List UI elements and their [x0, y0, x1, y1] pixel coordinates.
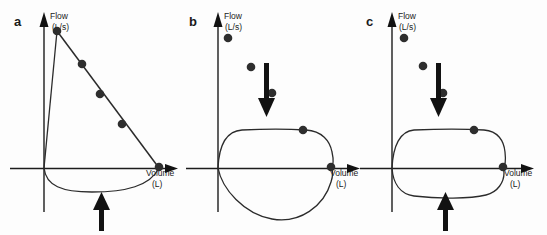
panel-a-inspiratory-limb — [44, 168, 159, 192]
panel-a-descending-fit-line — [57, 31, 159, 168]
panel-a-data-point — [118, 120, 127, 129]
panel-a-data-point — [96, 90, 105, 99]
panel-c-y-axis-arrowhead — [388, 12, 397, 27]
panel-b-data-point — [224, 34, 233, 43]
panel-a-up-arrow-annotation — [93, 192, 110, 231]
panel-a-y-axis — [40, 12, 49, 212]
panel-c-data-point — [470, 126, 479, 135]
panel-b-data-point — [299, 126, 308, 135]
panel-c-inspiratory-limb — [392, 168, 504, 198]
panel-b: b Flow (L/s) Volume (L) — [186, 11, 360, 220]
panel-a-ascending-limb — [44, 31, 57, 168]
panel-a-data-point — [155, 163, 164, 172]
panel-a-data-point — [78, 60, 87, 69]
panel-c-letter: c — [366, 14, 373, 29]
panel-b-letter: b — [189, 14, 197, 29]
figure-canvas: a Flow (L/s) Volume (L) — [0, 0, 547, 235]
panel-b-data-point — [327, 163, 336, 172]
panel-b-inspiratory-limb — [218, 168, 333, 220]
panel-b-expiratory-limb — [218, 129, 333, 168]
panel-a-letter: a — [14, 14, 22, 29]
panel-c-x-axis-label-line2: (L) — [510, 179, 521, 189]
panel-a-x-axis-label-line2: (L) — [152, 179, 163, 189]
panel-c-data-point — [400, 34, 409, 43]
panel-b-y-axis-label-line1: Flow — [224, 11, 243, 21]
flow-volume-loop-figure: a Flow (L/s) Volume (L) — [0, 0, 547, 235]
panel-b-y-axis-arrowhead — [214, 12, 223, 27]
panel-c: c Flow (L/s) Volume (L) — [360, 11, 534, 231]
panel-c-data-point — [419, 62, 428, 71]
panel-a-data-point — [53, 27, 62, 36]
panel-a-y-axis-label-line1: Flow — [50, 11, 69, 21]
panel-a-y-axis-arrowhead — [40, 12, 49, 27]
panel-b-y-axis — [214, 12, 223, 212]
panel-c-expiratory-limb — [392, 129, 505, 168]
panel-c-data-point — [499, 163, 508, 172]
panel-c-y-axis-label-line1: Flow — [398, 11, 417, 21]
panel-a: a Flow (L/s) Volume (L) — [10, 11, 178, 231]
panel-b-x-axis-label-line2: (L) — [336, 179, 347, 189]
panel-b-data-point — [247, 63, 256, 72]
panel-c-y-axis-label-line2: (L/s) — [399, 22, 416, 32]
panel-b-y-axis-label-line2: (L/s) — [225, 22, 242, 32]
